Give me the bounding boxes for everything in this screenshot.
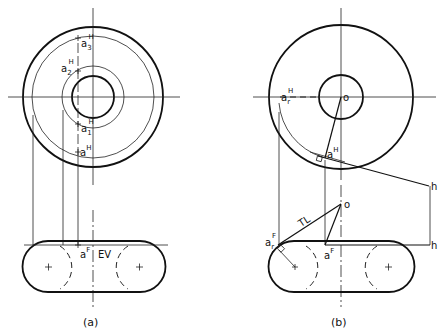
hidden-arc-left-b — [306, 246, 318, 289]
rotation-arc — [279, 103, 322, 157]
label-o-front: o — [344, 199, 350, 210]
label-aH: aH — [327, 146, 338, 160]
label-arF: arF — [265, 232, 276, 251]
panel-b: arH o aH h o TL arF aF h (b) — [253, 8, 437, 329]
radius-to-center-front — [279, 250, 295, 267]
center-markers-front-b — [292, 264, 392, 271]
stadium-front-view — [23, 241, 166, 292]
caption-b: (b) — [331, 316, 347, 329]
true-length-line — [278, 204, 341, 245]
radius-line-front — [325, 204, 341, 245]
center-markers-front — [45, 264, 143, 271]
label-a3: a3H — [81, 33, 94, 52]
panel-a: a3H a2H a1H aH aF EV (a) — [8, 8, 180, 329]
label-aF: aF — [80, 246, 90, 260]
label-EV: EV — [98, 249, 111, 260]
hidden-arc-right-b — [365, 246, 377, 289]
stadium-front-view-b — [269, 241, 415, 292]
label-o-top: o — [343, 92, 349, 103]
hidden-arc-left — [60, 246, 72, 289]
label-TL: TL — [295, 213, 312, 229]
label-a-top: aH — [80, 144, 91, 158]
descriptive-geometry-figure: a3H a2H a1H aH aF EV (a) — [0, 0, 442, 335]
label-aF-b: aF — [324, 247, 334, 261]
label-h-top: h — [431, 181, 437, 192]
hidden-arc-right — [116, 246, 128, 289]
label-h-front: h — [431, 240, 437, 251]
caption-a: (a) — [83, 316, 98, 329]
